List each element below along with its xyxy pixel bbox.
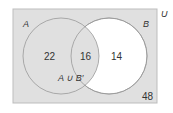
set-a-label: A <box>22 19 29 29</box>
universe-label: U <box>161 9 168 19</box>
venn-diagram: U A B 22 16 14 48 A ∪ B′ <box>0 0 173 113</box>
region-intersection-value: 16 <box>80 51 92 62</box>
shaded-region-label: A ∪ B′ <box>57 73 84 83</box>
set-b-label: B <box>143 19 149 29</box>
region-outside-value: 48 <box>142 91 154 102</box>
region-a-only-value: 22 <box>44 51 56 62</box>
region-b-only-value: 14 <box>111 51 123 62</box>
